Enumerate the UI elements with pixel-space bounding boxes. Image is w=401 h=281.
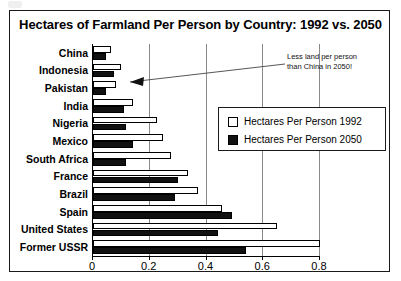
bar-1992-mexico [93,134,163,141]
bar-2050-brazil [93,194,175,201]
category-label-spain: Spain [59,207,88,218]
category-label-indonesia: Indonesia [39,65,88,76]
bar-2050-united-states [93,230,218,237]
legend-label-2050: Hectares Per Person 2050 [244,134,362,145]
bar-2050-south-africa [93,159,126,166]
bar-row: Brazil [92,185,319,203]
callout-line-2: than China in 2050! [287,62,383,72]
bar-row: France [92,168,319,186]
bar-1992-united-states [93,223,277,230]
bar-2050-india [93,106,124,113]
category-label-france: France [54,171,88,182]
scan-artifact [8,1,22,8]
bar-row: Spain [92,203,319,221]
legend-item-1992: Hectares Per Person 1992 [228,116,362,127]
bar-1992-brazil [93,187,198,194]
category-label-india: India [63,101,88,112]
category-label-former-ussr: Former USSR [20,242,88,253]
bar-1992-spain [93,205,222,212]
tick-label-0.6: 0.6 [255,260,270,272]
bar-1992-nigeria [93,117,157,124]
bar-row: United States [92,221,319,239]
legend-swatch-2050 [228,135,238,145]
bar-1992-india [93,99,133,106]
bar-2050-former-ussr [93,247,246,254]
legend-label-1992: Hectares Per Person 1992 [244,116,362,127]
bar-2050-mexico [93,141,133,148]
legend-item-2050: Hectares Per Person 2050 [228,134,362,145]
bar-1992-pakistan [93,81,116,88]
bar-1992-former-ussr [93,240,320,247]
category-label-brazil: Brazil [59,189,88,200]
bar-2050-france [93,177,178,184]
chart-screenshot: Hectares of Farmland Per Person by Count… [0,0,401,281]
chart-title: Hectares of Farmland Per Person by Count… [10,17,391,32]
category-label-china: China [59,48,88,59]
category-label-united-states: United States [21,224,88,235]
bar-1992-china [93,46,111,53]
bar-2050-nigeria [93,124,126,131]
category-label-pakistan: Pakistan [45,83,88,94]
legend-swatch-1992 [228,117,238,127]
bar-row: Indonesia [92,62,319,80]
tick-label-0.2: 0.2 [141,260,156,272]
bar-row: Pakistan [92,79,319,97]
chart-frame: Hectares of Farmland Per Person by Count… [9,10,390,272]
tick-label-0: 0 [89,260,95,272]
chart-legend: Hectares Per Person 1992 Hectares Per Pe… [218,107,386,151]
category-label-south-africa: South Africa [26,154,88,165]
category-label-mexico: Mexico [52,136,88,147]
tick-label-0.4: 0.4 [198,260,213,272]
pakistan-callout-text: Less land per person than China in 2050! [287,52,383,72]
bar-2050-pakistan [93,88,106,95]
bar-1992-south-africa [93,152,171,159]
tick-label-0.8: 0.8 [311,260,326,272]
category-label-nigeria: Nigeria [52,118,88,129]
bar-row: China [92,44,319,62]
bar-2050-china [93,53,106,60]
bar-1992-france [93,170,188,177]
bar-row: Former USSR [92,238,319,256]
bar-1992-indonesia [93,64,121,71]
callout-line-1: Less land per person [287,52,383,62]
bar-row: South Africa [92,150,319,168]
bar-2050-spain [93,212,232,219]
bar-2050-indonesia [93,71,114,78]
